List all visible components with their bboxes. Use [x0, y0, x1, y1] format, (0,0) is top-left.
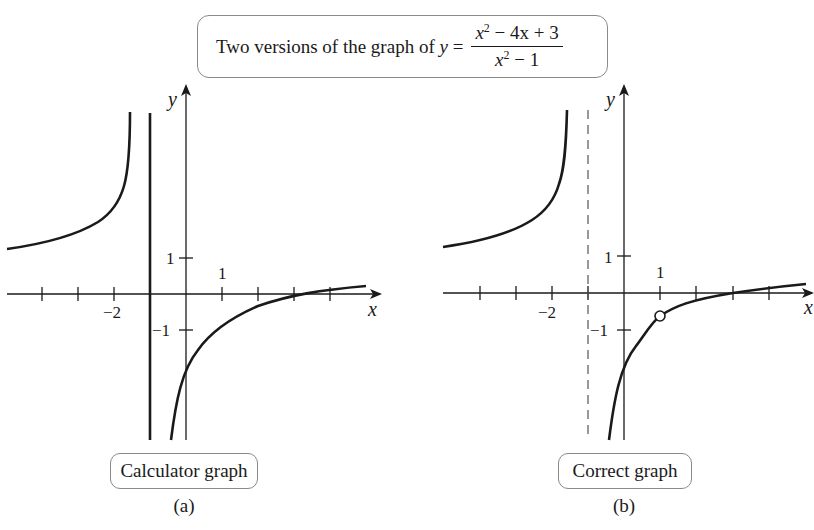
right-branch-curve: [609, 284, 806, 440]
y-axis-label: y: [166, 88, 177, 111]
tick-label-x-neg2: −2: [538, 303, 556, 322]
panel-label-b: (b): [594, 495, 654, 517]
tick-label-y-neg1: −1: [590, 321, 608, 340]
tick-label-y-1: 1: [166, 249, 175, 268]
y-axis-label: y: [604, 88, 615, 111]
left-branch-curve: [443, 110, 567, 247]
tick-label-x-1: 1: [656, 263, 665, 282]
tick-label-x-neg2: −2: [103, 303, 121, 322]
calculator-graph: −2 1 1 −1 y x: [7, 86, 380, 440]
correct-graph: −2 1 1 −1 y x: [443, 86, 813, 440]
tick-label-y-neg1: −1: [152, 321, 170, 340]
right-branch-curve: [171, 286, 366, 440]
hole-marker-open-circle: [655, 311, 665, 321]
left-branch-curve: [7, 112, 130, 249]
x-axis-label: x: [367, 298, 377, 320]
panel-label-a: (a): [154, 495, 214, 517]
tick-label-y-1: 1: [604, 248, 613, 267]
calculator-graph-caption: Calculator graph: [110, 453, 258, 489]
plots-canvas: −2 1 1 −1 y x −2 1 1 −1 y x: [0, 0, 814, 530]
x-axis-label: x: [803, 296, 813, 318]
tick-label-x-1: 1: [218, 264, 227, 283]
correct-graph-caption: Correct graph: [558, 453, 692, 489]
